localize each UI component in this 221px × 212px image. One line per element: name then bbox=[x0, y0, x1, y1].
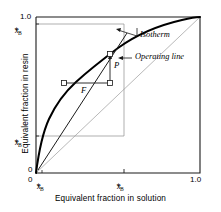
y-high-sub: B bbox=[18, 30, 22, 36]
x-low-sub: B bbox=[40, 186, 44, 192]
x-tick-label-right: 1.0 bbox=[190, 175, 201, 184]
arrow-p-label: P bbox=[114, 60, 119, 70]
x-tick-label-origin: 0 bbox=[28, 175, 32, 184]
step-construction bbox=[62, 52, 113, 86]
x-mid-sub: B bbox=[120, 186, 124, 192]
x-axis-title: Equivalent fraction in solution bbox=[0, 194, 221, 203]
y-low-sub: B bbox=[18, 142, 22, 148]
y-tick-label-xbstar-high: x∗B bbox=[15, 19, 22, 37]
y-axis-title: Equivalent fraction in resin bbox=[21, 24, 30, 184]
isotherm-label: Isotherm bbox=[140, 30, 170, 39]
arrow-f-label: F bbox=[81, 85, 86, 95]
diagonal-line bbox=[36, 17, 200, 173]
x-tick-label-xbstar-mid: x∗B bbox=[117, 175, 124, 193]
axis-ticks bbox=[36, 24, 124, 173]
y-tick-label-origin: 0 bbox=[28, 165, 32, 174]
operating-line bbox=[38, 33, 127, 170]
operating-line-label: Operating line bbox=[135, 52, 184, 61]
x-tick-label-xbstar-low: x∗B bbox=[37, 175, 44, 193]
ion-exchange-equilibrium-figure: Equivalent fraction in solution Equivale… bbox=[0, 0, 221, 212]
annotation-leaders bbox=[116, 28, 137, 60]
plot-canvas bbox=[0, 0, 221, 212]
y-tick-label-xbstar-low: x∗B bbox=[15, 131, 22, 149]
